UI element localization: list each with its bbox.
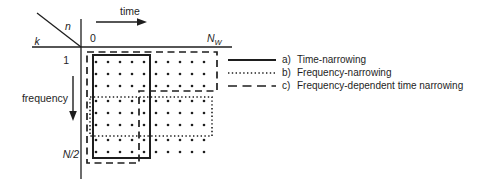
- frequency-axis-arrow: [69, 76, 77, 121]
- legend-label-c: Frequency-dependent time narrowing: [297, 80, 463, 91]
- grid-dot: [167, 73, 170, 76]
- legend-prefix-b: b): [282, 67, 291, 78]
- grid-dot: [131, 85, 134, 88]
- grid-dot: [155, 85, 158, 88]
- time-axis-arrow: [96, 18, 147, 26]
- grid-dot: [119, 112, 122, 115]
- grid-dot: [131, 100, 134, 103]
- grid-dot: [191, 139, 194, 142]
- grid-dot: [167, 151, 170, 154]
- freq-last-tick-label: N/2: [63, 148, 80, 160]
- grid-dot: [191, 100, 194, 103]
- grid-dot: [95, 73, 98, 76]
- grid-dot: [143, 73, 146, 76]
- legend-prefix-c: c): [282, 80, 290, 91]
- legend-label-b: Frequency-narrowing: [297, 67, 392, 78]
- grid-dot: [203, 61, 206, 64]
- grid-dot: [107, 61, 110, 64]
- grid-dot: [179, 100, 182, 103]
- grid-dot: [179, 112, 182, 115]
- grid-dot: [191, 73, 194, 76]
- grid-dot: [203, 124, 206, 127]
- grid-dot: [95, 139, 98, 142]
- grid-dot: [167, 85, 170, 88]
- time-end-tick-label: NW: [207, 32, 223, 47]
- grid-dot: [95, 100, 98, 103]
- legend-label-a: Time-narrowing: [297, 54, 366, 65]
- grid-dot: [179, 73, 182, 76]
- grid-dot: [119, 73, 122, 76]
- grid-dot: [203, 100, 206, 103]
- region-c-frequency-dependent-time-narrowing: [87, 52, 217, 163]
- axes: time frequency n k 0 NW 1 N/2: [22, 5, 232, 179]
- right-arrowhead-icon: [137, 18, 147, 26]
- grid-dot: [119, 139, 122, 142]
- grid-dot: [167, 124, 170, 127]
- grid-dot: [203, 112, 206, 115]
- grid-dot: [179, 61, 182, 64]
- grid-dot: [203, 139, 206, 142]
- figure-canvas: time frequency n k 0 NW 1 N/2 a) Time-na…: [0, 0, 500, 187]
- grid-dot: [131, 61, 134, 64]
- grid-dot: [167, 139, 170, 142]
- region-a-time-narrowing: [93, 55, 150, 158]
- grid-dot: [131, 151, 134, 154]
- grid-dot: [155, 112, 158, 115]
- grid-dot: [167, 112, 170, 115]
- grid-dot: [155, 100, 158, 103]
- grid-dot: [95, 85, 98, 88]
- down-arrowhead-icon: [69, 111, 77, 121]
- grid-dot: [119, 61, 122, 64]
- frequency-axis-label: frequency: [22, 92, 69, 104]
- grid-dot: [203, 85, 206, 88]
- grid-dot: [131, 124, 134, 127]
- n-variable-label: n: [65, 20, 71, 32]
- grid-dot: [203, 73, 206, 76]
- grid-dot: [95, 61, 98, 64]
- grid-dot: [191, 61, 194, 64]
- grid-dot: [179, 151, 182, 154]
- grid-dot: [107, 73, 110, 76]
- legend-prefix-a: a): [282, 54, 291, 65]
- grid-dot: [131, 139, 134, 142]
- grid-dot: [119, 124, 122, 127]
- grid-dot: [191, 85, 194, 88]
- origin-tick-label: 0: [90, 32, 96, 44]
- k-variable-label: k: [34, 35, 40, 47]
- grid-dot: [131, 112, 134, 115]
- grid-dot: [143, 61, 146, 64]
- grid-dot: [155, 139, 158, 142]
- legend: a) Time-narrowing b) Frequency-narrowing…: [228, 54, 463, 91]
- grid-dot: [107, 124, 110, 127]
- grid-dot: [95, 151, 98, 154]
- grid-dot: [179, 139, 182, 142]
- grid-dot: [179, 85, 182, 88]
- legend-item-b: b) Frequency-narrowing: [228, 67, 392, 78]
- grid-dot: [155, 151, 158, 154]
- grid-dot: [179, 124, 182, 127]
- time-end-subscript: W: [215, 38, 223, 47]
- grid-dot: [143, 100, 146, 103]
- grid-dot: [191, 151, 194, 154]
- grid-dot: [131, 73, 134, 76]
- grid-dot: [119, 100, 122, 103]
- axis-diagonal-line: [37, 13, 81, 47]
- grid-dot: [155, 73, 158, 76]
- grid-dot: [119, 85, 122, 88]
- grid-dot: [95, 112, 98, 115]
- grid-dot: [143, 112, 146, 115]
- grid-dot: [155, 61, 158, 64]
- grid-dot: [191, 124, 194, 127]
- grid-dot: [143, 85, 146, 88]
- grid-dot: [95, 124, 98, 127]
- grid-dot: [107, 112, 110, 115]
- time-axis-label: time: [120, 5, 140, 17]
- grid-dot: [203, 151, 206, 154]
- grid-dot: [119, 151, 122, 154]
- grid-dot: [167, 61, 170, 64]
- grid-dot: [155, 124, 158, 127]
- grid-dot: [143, 151, 146, 154]
- grid-dot: [167, 100, 170, 103]
- legend-item-a: a) Time-narrowing: [228, 54, 366, 65]
- freq-first-tick-label: 1: [63, 54, 69, 66]
